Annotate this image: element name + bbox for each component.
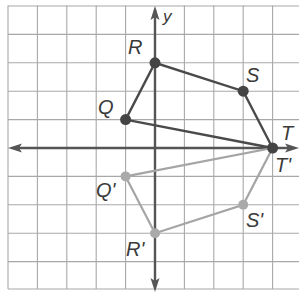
label-t-prime: T': [275, 154, 292, 176]
label-q-prime: Q': [96, 179, 117, 201]
label-r-prime: R': [126, 238, 145, 260]
point-t: [267, 143, 278, 154]
point-r-prime: [150, 228, 160, 238]
label-q: Q: [98, 96, 114, 118]
axes: [8, 6, 299, 292]
label-s-prime: S': [246, 209, 264, 231]
point-q: [120, 114, 131, 125]
y-axis-label: y: [162, 7, 173, 26]
point-r: [150, 57, 161, 68]
point-q-prime: [121, 171, 131, 181]
label-r: R: [128, 36, 142, 58]
point-s: [238, 86, 249, 97]
coordinate-plane: y R Q S T T' Q' S' R': [0, 0, 299, 297]
label-s: S: [246, 64, 260, 86]
label-t: T: [281, 122, 295, 144]
